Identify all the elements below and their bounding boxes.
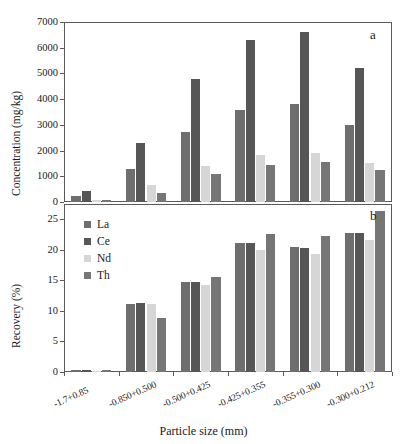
legend-item-la[interactable]: La <box>84 216 111 233</box>
bar-ce-5 <box>355 233 364 372</box>
bar-ce-1 <box>136 303 145 372</box>
x-category-label-5: -0.300+0.212 <box>325 379 376 409</box>
bar-th-4 <box>321 236 330 372</box>
legend-item-nd[interactable]: Nd <box>84 250 111 267</box>
legend-label: Th <box>97 270 110 282</box>
panel-a-y-tick-label: 5000 <box>10 68 58 79</box>
x-category-label-3: -0.425+0.355 <box>216 379 267 409</box>
bar-th-5 <box>375 211 384 372</box>
bar-ce-1 <box>136 143 145 202</box>
legend: LaCeNdTh <box>84 216 111 284</box>
panel-b-bars-layer <box>64 204 392 372</box>
panel-b-y-tick-label: 20 <box>10 245 58 256</box>
bar-th-0 <box>102 200 111 202</box>
bar-th-1 <box>157 318 166 372</box>
x-category-label-1: -0.850+0.500 <box>107 379 158 409</box>
legend-swatch-icon <box>84 272 91 279</box>
legend-item-th[interactable]: Th <box>84 267 111 284</box>
y-tick-mark <box>60 202 64 203</box>
x-category-label-2: -0.500+0.425 <box>161 379 212 409</box>
x-category-label-0: -1.7+0.85 <box>52 385 90 409</box>
bar-la-2 <box>181 132 190 202</box>
bar-la-3 <box>235 110 244 202</box>
bar-la-5 <box>345 125 354 202</box>
x-tick-mark <box>392 372 393 376</box>
bar-nd-0 <box>92 371 101 372</box>
panel-a-y-tick-label: 0 <box>10 197 58 208</box>
panel-a-y-tick-label: 7000 <box>10 17 58 28</box>
legend-swatch-icon <box>84 221 91 228</box>
figure-canvas: Concentration (mg/kg) 700060005000400030… <box>0 0 407 444</box>
panel-a-y-tick-label: 2000 <box>10 146 58 157</box>
bar-la-3 <box>235 243 244 372</box>
bar-nd-2 <box>201 285 210 372</box>
legend-item-ce[interactable]: Ce <box>84 233 111 250</box>
legend-label: La <box>97 219 109 231</box>
bar-la-2 <box>181 282 190 372</box>
panel-b-y-tick-label: 10 <box>10 306 58 317</box>
x-axis-title: Particle size (mm) <box>0 424 407 439</box>
bar-th-4 <box>321 162 330 202</box>
legend-label: Nd <box>97 253 111 265</box>
x-tick-mark <box>64 372 65 376</box>
legend-swatch-icon <box>84 238 91 245</box>
bar-th-3 <box>266 165 275 202</box>
bar-nd-4 <box>311 153 320 202</box>
legend-swatch-icon <box>84 255 91 262</box>
panel-b-y-tick-label: 15 <box>10 275 58 286</box>
panel-a-bars-layer <box>64 22 392 202</box>
bar-th-2 <box>211 277 220 372</box>
bar-la-0 <box>71 196 80 202</box>
x-tick-mark <box>337 372 338 376</box>
panel-b-y-tick-label: 5 <box>10 336 58 347</box>
bar-la-4 <box>290 104 299 202</box>
bar-th-2 <box>211 174 220 202</box>
panel-a-y-tick-label: 3000 <box>10 120 58 131</box>
bar-nd-0 <box>92 200 101 202</box>
bar-ce-0 <box>82 191 91 202</box>
x-category-label-4: -0.355+0.300 <box>271 379 322 409</box>
panel-a-y-tick-label: 1000 <box>10 171 58 182</box>
bar-la-1 <box>126 169 135 202</box>
x-tick-mark <box>228 372 229 376</box>
bar-ce-4 <box>300 248 309 372</box>
panel-b-label: b <box>370 208 377 224</box>
bar-th-0 <box>102 370 111 372</box>
panel-a-y-tick-label: 6000 <box>10 43 58 54</box>
bar-th-3 <box>266 234 275 372</box>
panel-b-y-tick-label: 25 <box>10 214 58 225</box>
bar-nd-3 <box>256 250 265 372</box>
bar-th-5 <box>375 170 384 202</box>
bar-ce-5 <box>355 68 364 202</box>
panel-a-y-tick-label: 4000 <box>10 94 58 105</box>
bar-ce-0 <box>82 370 91 372</box>
bar-la-5 <box>345 233 354 372</box>
bar-ce-2 <box>191 79 200 202</box>
bar-nd-2 <box>201 166 210 202</box>
bar-nd-5 <box>365 163 374 202</box>
x-tick-mark <box>283 372 284 376</box>
bar-la-4 <box>290 247 299 372</box>
x-tick-mark <box>173 372 174 376</box>
bar-nd-1 <box>147 185 156 202</box>
panel-b-y-tick-label: 0 <box>10 367 58 378</box>
bar-th-1 <box>157 193 166 203</box>
legend-label: Ce <box>97 236 110 248</box>
bar-ce-3 <box>246 243 255 372</box>
bar-nd-3 <box>256 155 265 202</box>
bar-ce-2 <box>191 282 200 372</box>
panel-a-label: a <box>370 27 376 43</box>
bar-ce-4 <box>300 32 309 202</box>
bar-nd-1 <box>147 304 156 372</box>
bar-nd-5 <box>365 240 374 372</box>
bar-la-0 <box>71 370 80 372</box>
x-tick-mark <box>119 372 120 376</box>
bar-nd-4 <box>311 254 320 372</box>
bar-ce-3 <box>246 40 255 202</box>
bar-la-1 <box>126 304 135 372</box>
